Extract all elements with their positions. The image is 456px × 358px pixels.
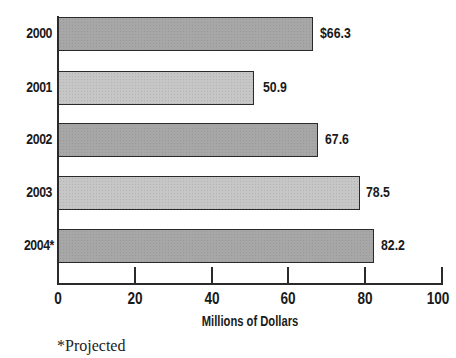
x-tick-60 [287,267,289,284]
x-tick-100 [441,267,443,284]
value-label-2004: 82.2 [381,236,405,253]
value-label-2000: $66.3 [320,24,351,41]
x-tick-label-60: 60 [271,290,305,308]
x-tick-40 [211,267,213,284]
x-tick-label-0: 0 [41,290,75,308]
x-tick-20 [134,267,136,284]
value-label-2002: 67.6 [325,130,349,147]
bar-chart: 2000 $66.3 2001 50.9 2002 67.6 2003 78.5… [0,0,456,358]
category-label-2001: 2001 [11,78,52,95]
x-tick-label-20: 20 [118,290,152,308]
bar-2004 [59,229,374,263]
bar-2003 [59,176,360,210]
bar-2000 [59,17,313,51]
value-label-2003: 78.5 [366,183,390,200]
category-label-2002: 2002 [11,130,52,147]
x-tick-label-80: 80 [348,290,382,308]
category-label-2004: 2004* [13,236,54,253]
x-tick-80 [364,267,366,284]
x-tick-label-100: 100 [421,290,455,308]
x-axis-line [57,283,443,285]
category-label-2000: 2000 [11,24,52,41]
footnote: *Projected [57,337,125,355]
bar-2002 [59,123,318,157]
value-label-2001: 50.9 [263,78,287,95]
bar-2001 [59,71,254,105]
x-axis-title: Millions of Dollars [170,313,330,329]
category-label-2003: 2003 [11,183,52,200]
x-tick-label-40: 40 [195,290,229,308]
